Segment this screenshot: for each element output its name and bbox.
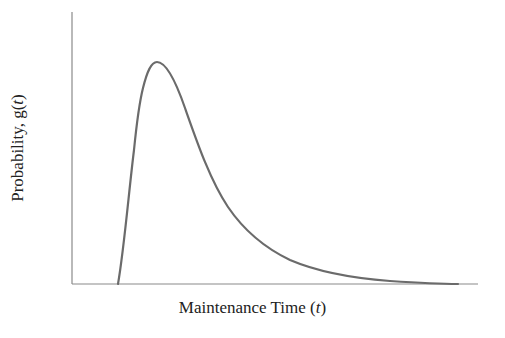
y-axis-label: Probability, g(t) <box>8 94 28 202</box>
density-chart <box>0 0 505 338</box>
density-curve <box>118 62 458 284</box>
x-axis-label: Maintenance Time (t) <box>0 298 505 318</box>
